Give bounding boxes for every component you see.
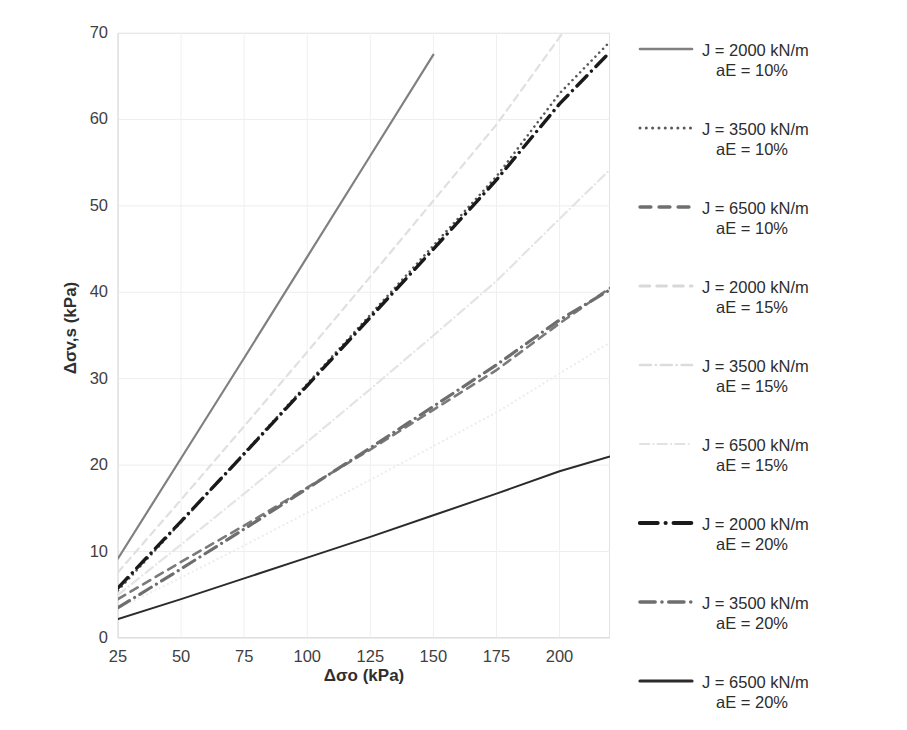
legend-item-7[interactable]: J = 3500 kN/maE = 20% <box>638 593 809 633</box>
legend-label-line1: J = 3500 kN/m <box>702 357 809 375</box>
legend-label: J = 3500 kN/maE = 15% <box>702 356 809 396</box>
legend-label: J = 3500 kN/maE = 20% <box>702 593 809 633</box>
legend-label: J = 6500 kN/maE = 20% <box>702 672 809 712</box>
legend-label-line2: aE = 10% <box>702 139 809 159</box>
legend-item-5[interactable]: J = 6500 kN/maE = 15% <box>638 435 809 475</box>
legend-line-sample-icon <box>638 41 694 59</box>
y-axis-title: Δσv,s (kPa) <box>61 223 81 433</box>
legend-label-line2: aE = 10% <box>702 60 809 80</box>
legend-item-0[interactable]: J = 2000 kN/maE = 10% <box>638 40 809 80</box>
y-tick-60: 60 <box>62 110 108 126</box>
legend-label-line2: aE = 15% <box>702 297 809 317</box>
legend-label-line1: J = 6500 kN/m <box>702 673 809 691</box>
x-tick-150: 150 <box>407 648 459 664</box>
legend-label-line2: aE = 15% <box>702 376 809 396</box>
legend-line-sample-icon <box>638 120 694 138</box>
y-tick-20: 20 <box>62 456 108 472</box>
legend-line-sample-icon <box>638 673 694 691</box>
figure-root: 010203040506070 255075100125150175200 Δσ… <box>0 0 907 730</box>
legend-label-line2: aE = 20% <box>702 613 809 633</box>
x-axis-title: Δσo (kPa) <box>118 666 610 686</box>
legend-item-1[interactable]: J = 3500 kN/maE = 10% <box>638 119 809 159</box>
series-line-6 <box>118 52 610 588</box>
legend-label-line1: J = 2000 kN/m <box>702 515 809 533</box>
legend-label-line1: J = 6500 kN/m <box>702 436 809 454</box>
legend-line-sample-icon <box>638 278 694 296</box>
legend-line-sample-icon <box>638 436 694 454</box>
series-line-5 <box>118 342 610 608</box>
chart-plot <box>32 18 626 658</box>
legend-item-4[interactable]: J = 3500 kN/maE = 15% <box>638 356 809 396</box>
legend-label: J = 6500 kN/maE = 10% <box>702 198 809 238</box>
x-tick-175: 175 <box>470 648 522 664</box>
y-tick-10: 10 <box>62 543 108 559</box>
legend-label-line1: J = 2000 kN/m <box>702 278 809 296</box>
legend-item-2[interactable]: J = 6500 kN/maE = 10% <box>638 198 809 238</box>
x-tick-50: 50 <box>155 648 207 664</box>
legend-label-line1: J = 6500 kN/m <box>702 199 809 217</box>
x-tick-125: 125 <box>344 648 396 664</box>
legend-label: J = 2000 kN/maE = 20% <box>702 514 809 554</box>
legend-label-line2: aE = 15% <box>702 455 809 475</box>
series-line-7 <box>118 290 610 608</box>
series-line-0 <box>118 55 433 559</box>
legend-label-line1: J = 3500 kN/m <box>702 120 809 138</box>
legend-label-line2: aE = 20% <box>702 534 809 554</box>
legend-label-line1: J = 2000 kN/m <box>702 41 809 59</box>
legend-label-line2: aE = 20% <box>702 692 809 712</box>
x-tick-100: 100 <box>281 648 333 664</box>
legend-label: J = 2000 kN/maE = 15% <box>702 277 809 317</box>
x-tick-75: 75 <box>218 648 270 664</box>
legend-label-line1: J = 3500 kN/m <box>702 594 809 612</box>
legend-line-sample-icon <box>638 199 694 217</box>
legend-line-sample-icon <box>638 515 694 533</box>
chart-area: 010203040506070 255075100125150175200 Δσ… <box>32 18 626 694</box>
legend-label: J = 6500 kN/maE = 15% <box>702 435 809 475</box>
x-tick-25: 25 <box>92 648 144 664</box>
legend-line-sample-icon <box>638 357 694 375</box>
legend-item-3[interactable]: J = 2000 kN/maE = 15% <box>638 277 809 317</box>
y-tick-0: 0 <box>62 629 108 645</box>
x-tick-200: 200 <box>534 648 586 664</box>
legend-label-line2: aE = 10% <box>702 218 809 238</box>
y-tick-50: 50 <box>62 197 108 213</box>
legend-line-sample-icon <box>638 594 694 612</box>
series-line-4 <box>118 170 610 595</box>
y-tick-70: 70 <box>62 24 108 40</box>
legend-item-8[interactable]: J = 6500 kN/maE = 20% <box>638 672 809 712</box>
series-line-3 <box>118 0 592 572</box>
legend-item-6[interactable]: J = 2000 kN/maE = 20% <box>638 514 809 554</box>
series-line-8 <box>118 457 610 619</box>
legend-label: J = 2000 kN/maE = 10% <box>702 40 809 80</box>
legend-label: J = 3500 kN/maE = 10% <box>702 119 809 159</box>
